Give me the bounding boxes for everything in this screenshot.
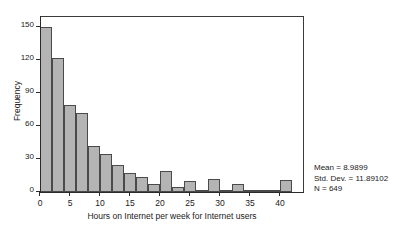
tick-label: 30: [25, 152, 34, 161]
tick-mark: [219, 192, 220, 196]
tick-label: 150: [21, 20, 34, 29]
histogram-bar: [112, 165, 124, 193]
histogram-bar: [64, 105, 76, 192]
tick-mark: [189, 192, 190, 196]
tick-label: 10: [95, 198, 104, 208]
histogram-bar: [148, 184, 160, 192]
tick-mark: [159, 192, 160, 196]
stat-n: N = 649: [314, 184, 388, 195]
histogram-figure: 0306090120150 0510152025303540 Hours on …: [0, 0, 400, 232]
tick-mark: [36, 158, 40, 159]
tick-mark: [36, 92, 40, 93]
histogram-bar: [280, 180, 292, 192]
x-axis-line: [40, 192, 304, 193]
tick-label: 25: [185, 198, 194, 208]
tick-label: 90: [25, 86, 34, 95]
tick-label: 60: [25, 119, 34, 128]
stat-mean: Mean = 8.9899: [314, 163, 388, 174]
histogram-bar: [76, 113, 88, 192]
tick-mark: [39, 192, 40, 196]
tick-mark: [36, 26, 40, 27]
bar-series: [40, 16, 304, 192]
tick-label: 120: [21, 53, 34, 62]
histogram-bar: [184, 181, 196, 192]
histogram-bar: [136, 177, 148, 192]
histogram-bar: [88, 146, 100, 192]
histogram-bar: [124, 173, 136, 192]
tick-label: 35: [245, 198, 254, 208]
y-axis-line: [40, 16, 41, 192]
tick-label: 20: [155, 198, 164, 208]
tick-label: 0: [30, 185, 34, 194]
tick-mark: [249, 192, 250, 196]
histogram-bar: [232, 184, 244, 192]
histogram-bar: [160, 171, 172, 192]
statistics-annotation: Mean = 8.9899 Std. Dev. = 11.89102 N = 6…: [314, 163, 388, 195]
tick-mark: [99, 192, 100, 196]
tick-label: 15: [125, 198, 134, 208]
tick-mark: [36, 125, 40, 126]
histogram-bar: [100, 154, 112, 193]
x-axis-title: Hours on Internet per week for Internet …: [40, 211, 304, 221]
tick-label: 5: [68, 198, 73, 208]
histogram-bar: [52, 58, 64, 192]
tick-label: 30: [215, 198, 224, 208]
tick-label: 40: [275, 198, 284, 208]
tick-mark: [279, 192, 280, 196]
tick-mark: [129, 192, 130, 196]
y-axis-title: Frequency: [12, 46, 22, 156]
histogram-bar: [40, 27, 52, 192]
histogram-bar: [208, 179, 220, 192]
tick-label: 0: [38, 198, 43, 208]
tick-mark: [69, 192, 70, 196]
stat-std-dev: Std. Dev. = 11.89102: [314, 174, 388, 185]
tick-mark: [36, 59, 40, 60]
